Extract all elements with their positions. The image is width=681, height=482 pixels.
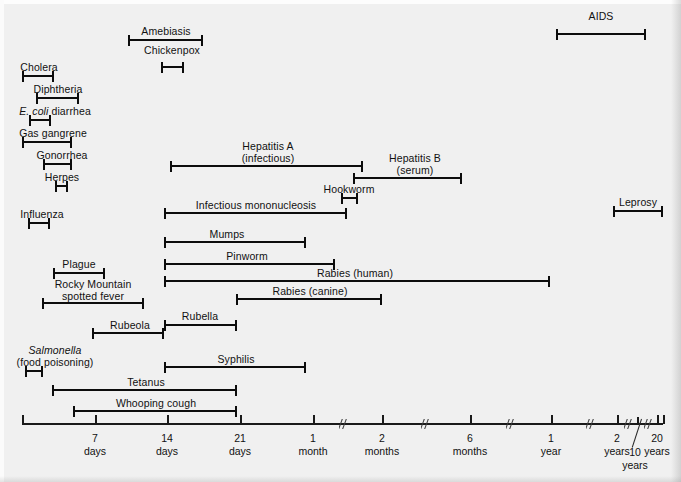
label-line: Hookworm — [324, 184, 375, 196]
tick-unit: month — [298, 445, 327, 458]
range-bar-leprosy — [613, 210, 663, 212]
tick-value: 1 — [541, 432, 561, 445]
label-line: Hepatitis A — [242, 141, 295, 153]
range-bar-gonorrhea — [43, 163, 72, 165]
range-bar-label-whooping-cough: Whooping cough — [116, 398, 196, 410]
range-bar-label-mumps: Mumps — [210, 229, 245, 241]
axis-break-mark-4 — [586, 419, 594, 429]
axis-break-mark-1 — [339, 419, 347, 429]
range-bar-label-leprosy: Leprosy — [619, 197, 657, 209]
range-bar-label-aids: AIDS — [589, 11, 614, 23]
tick-unit: days — [156, 445, 178, 458]
label-line: Amebiasis — [141, 26, 190, 38]
label-line: AIDS — [589, 11, 614, 23]
range-bar-label-rubella: Rubella — [182, 311, 218, 323]
label-line: Rabies (human) — [317, 268, 393, 280]
label-line: Plague — [62, 259, 95, 271]
range-bar-rubeola — [92, 332, 164, 334]
axis-tick-14-days — [167, 415, 169, 424]
label-line: Influenza — [20, 209, 64, 221]
range-bar-label-rubeola: Rubeola — [110, 320, 150, 332]
label-line: Syphilis — [218, 354, 255, 366]
label-line: Rocky Mountain — [55, 279, 132, 291]
tick-unit: months — [453, 445, 487, 458]
label-line: Rabies (canine) — [272, 286, 347, 298]
tick-value: 7 — [84, 432, 106, 445]
label-line: Rubeola — [110, 320, 150, 332]
tick-value: 2 — [604, 432, 630, 445]
label-line: Tetanus — [127, 377, 164, 389]
range-bar-label-hookworm: Hookworm — [324, 184, 375, 196]
axis-tick-1-month — [313, 415, 315, 424]
range-bar-aids — [556, 33, 646, 35]
range-bar-tetanus — [52, 389, 237, 391]
range-bar-mumps — [164, 241, 306, 243]
axis-tick-20-years — [657, 415, 659, 424]
label-line: (serum) — [389, 165, 441, 177]
range-bar-label-infectious-mononucleosis: Infectious mononucleosis — [196, 200, 316, 212]
tick-unit: years — [622, 459, 648, 472]
range-bar-hepatitis-b-serum — [353, 177, 462, 179]
range-bar-cholera — [22, 75, 54, 77]
axis-tick-7-days — [95, 415, 97, 424]
axis-tick-label-6-months: 6months — [453, 432, 487, 457]
tick-value: 1 — [298, 432, 327, 445]
range-bar-rubella — [164, 324, 237, 326]
range-bar-amebiasis — [128, 39, 203, 41]
axis-tick-label-20-years: 20years — [644, 432, 670, 457]
incubation-period-range-chart: AIDSAmebiasisChickenpoxCholeraDiphtheria… — [0, 0, 681, 482]
tick-unit: days — [229, 445, 251, 458]
tick-value: 20 — [644, 432, 670, 445]
axis-tick-6-months — [470, 415, 472, 424]
range-bar-diphtheria — [36, 97, 79, 99]
axis-tick-label-7-days: 7days — [84, 432, 106, 457]
range-bar-label-syphilis: Syphilis — [218, 354, 255, 366]
label-line: Chickenpox — [144, 45, 200, 57]
tick-value: 21 — [229, 432, 251, 445]
range-bar-infectious-mononucleosis — [164, 212, 347, 214]
axis-break-mark-6 — [644, 419, 652, 429]
label-line: Herpes — [45, 172, 79, 184]
label-line: Hepatitis B — [389, 153, 441, 165]
axis-break-mark-2 — [421, 419, 429, 429]
axis-tick-label-1-year: 1year — [541, 432, 561, 457]
page-edge-left — [0, 0, 4, 482]
range-bar-label-chickenpox: Chickenpox — [144, 45, 200, 57]
label-line: (infectious) — [242, 153, 295, 165]
range-bar-salmonella-food-poisoning — [25, 370, 43, 372]
range-bar-pinworm — [164, 263, 335, 265]
range-bar-rocky-mountain-spotted-fever — [42, 302, 144, 304]
axis-tick-2-months — [382, 415, 384, 424]
range-bar-hepatitis-a-infectious — [170, 165, 363, 167]
range-bar-whooping-cough — [73, 410, 237, 412]
range-bar-label-influenza: Influenza — [20, 209, 64, 221]
range-bar-label-salmonella-food-poisoning: Salmonella(food poisoning) — [17, 345, 94, 368]
range-bar-rabies-human — [164, 280, 550, 282]
label-line: Gas gangrene — [19, 128, 87, 140]
label-line: (food poisoning) — [17, 357, 94, 369]
range-bar-label-gas-gangrene: Gas gangrene — [19, 128, 87, 140]
label-line: Pinworm — [226, 251, 268, 263]
range-bar-gas-gangrene — [22, 141, 72, 143]
range-bar-label-hepatitis-a-infectious: Hepatitis A(infectious) — [242, 141, 295, 164]
axis-tick-label-21-days: 21days — [229, 432, 251, 457]
tick-value: 2 — [365, 432, 399, 445]
label-line: Rubella — [182, 311, 218, 323]
tick-unit: years — [644, 445, 670, 458]
label-line: spotted fever — [55, 291, 132, 303]
range-bar-rabies-canine — [236, 298, 382, 300]
axis-end-cap — [663, 415, 665, 424]
range-bar-label-plague: Plague — [62, 259, 95, 271]
range-bar-label-herpes: Herpes — [45, 172, 79, 184]
range-bar-label-tetanus: Tetanus — [127, 377, 164, 389]
axis-break-mark-5 — [624, 419, 632, 429]
axis-tick-label-1-month: 1month — [298, 432, 327, 457]
range-bar-e-coli-diarrhea — [29, 119, 51, 121]
range-bar-label-pinworm: Pinworm — [226, 251, 268, 263]
axis-tick-10-years — [637, 417, 639, 424]
tick-unit: year — [541, 445, 561, 458]
page-edge-right — [671, 0, 681, 482]
range-bar-label-rabies-canine: Rabies (canine) — [272, 286, 347, 298]
range-bar-plague — [53, 272, 105, 274]
range-bar-influenza — [28, 222, 50, 224]
